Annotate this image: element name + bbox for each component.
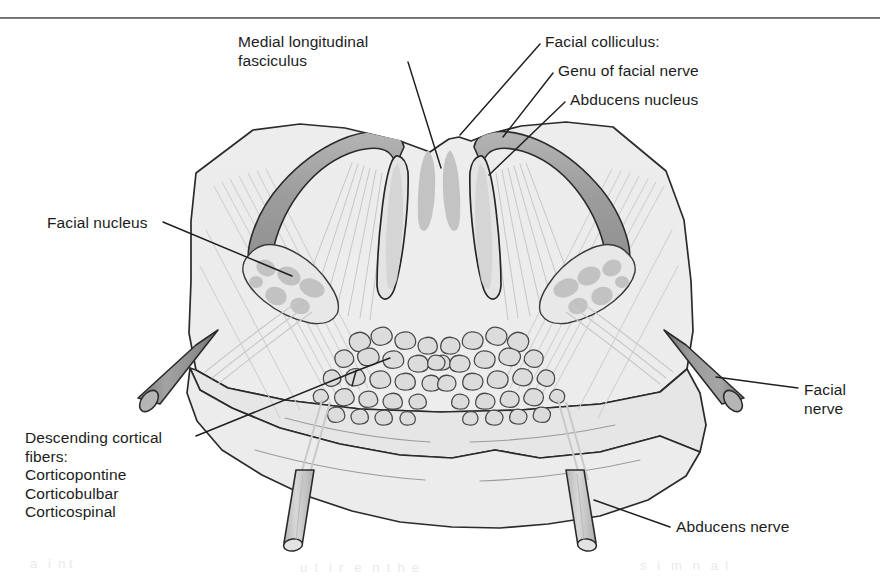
label-facial-colliculus: Facial colliculus: <box>545 33 660 52</box>
leader-facial-colliculus <box>460 44 540 135</box>
anatomy-figure: Medial longitudinal fasciculus Facial co… <box>0 0 880 586</box>
label-genu-of-facial-nerve: Genu of facial nerve <box>558 62 699 81</box>
label-medial-longitudinal-fasciculus: Medial longitudinal fasciculus <box>238 33 368 70</box>
label-facial-nerve: Facial nerve <box>804 381 846 418</box>
label-facial-nucleus: Facial nucleus <box>47 214 147 233</box>
label-descending-cortical-fibers: Descending cortical fibers: Corticoponti… <box>25 429 162 522</box>
label-abducens-nucleus: Abducens nucleus <box>570 91 698 110</box>
label-abducens-nerve: Abducens nerve <box>676 518 789 537</box>
